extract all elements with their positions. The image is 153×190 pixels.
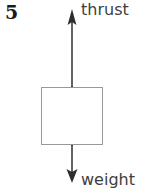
force-diagram-graphic xyxy=(0,0,153,190)
body-rectangle xyxy=(42,88,103,145)
thrust-force-label: thrust xyxy=(81,1,129,19)
force-diagram-figure: 5 thrust weight xyxy=(0,0,153,190)
weight-force-label: weight xyxy=(81,171,135,189)
